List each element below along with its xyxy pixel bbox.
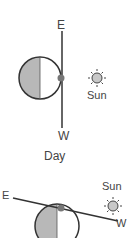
east-label: E (2, 190, 9, 201)
west-label: W (58, 130, 69, 142)
top-diagram (19, 31, 106, 128)
sun-label: Sun (102, 181, 122, 192)
bottom-diagram (13, 197, 122, 238)
sun-icon (104, 197, 122, 215)
west-label: W (116, 218, 126, 229)
night-half-shading (35, 204, 57, 238)
night-half-shading (19, 57, 40, 99)
observer-dot (58, 205, 65, 212)
diagram-canvas (0, 0, 129, 238)
observer-dot (58, 75, 65, 82)
horizon-line (13, 198, 118, 221)
sun-icon (88, 69, 106, 87)
east-label: E (57, 19, 65, 31)
sun-label: Sun (87, 90, 107, 101)
day-caption: Day (44, 150, 65, 162)
